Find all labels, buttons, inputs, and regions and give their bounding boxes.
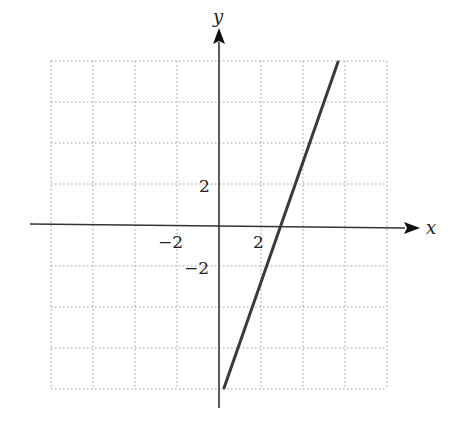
x-tick-label-neg2: −2 bbox=[158, 232, 183, 252]
y-axis-label: y bbox=[212, 6, 224, 27]
y-tick-label-neg2: −2 bbox=[184, 258, 209, 278]
x-axis-label: x bbox=[426, 217, 436, 238]
x-axis bbox=[30, 222, 420, 234]
x-tick-label-2: 2 bbox=[253, 232, 264, 252]
y-axis-arrow-icon bbox=[213, 28, 225, 44]
line-series bbox=[224, 62, 338, 388]
y-tick-label-2: 2 bbox=[199, 176, 210, 196]
x-axis-arrow-icon bbox=[404, 222, 420, 234]
y-axis bbox=[213, 28, 225, 408]
coordinate-plane: y x −2 2 2 −2 bbox=[0, 0, 452, 421]
